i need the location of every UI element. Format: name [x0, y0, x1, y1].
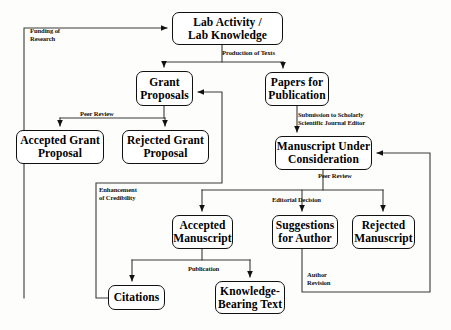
- edge-label-submission-to-journal: Submission to Scholarly Scientific Journ…: [298, 111, 365, 126]
- node-grant-proposals[interactable]: Grant Proposals: [136, 71, 193, 106]
- edge-label-publication: Publication: [188, 265, 219, 273]
- node-grant-proposals-label: Grant Proposals: [137, 76, 192, 102]
- node-citations-label: Citations: [109, 291, 164, 304]
- node-papers-for-publication[interactable]: Papers for Publication: [265, 72, 329, 106]
- node-knowledge-bearing-text-label: Knowledge- Bearing Text: [216, 285, 284, 311]
- edge-label-peer-review-grant: Peer Review: [80, 110, 114, 118]
- node-papers-for-publication-label: Papers for Publication: [266, 76, 328, 102]
- node-manuscript-under-consideration[interactable]: Manuscript Under Consideration: [275, 136, 372, 170]
- node-lab-activity-label: Lab Activity / Lab Knowledge: [173, 16, 282, 42]
- node-accepted-manuscript[interactable]: Accepted Manuscript: [172, 215, 233, 249]
- edge-label-editorial-decision: Editorial Decision: [272, 196, 321, 204]
- edge-label-author-revision: Author Revision: [307, 271, 330, 286]
- node-rejected-grant-proposal-label: Rejected Grant Proposal: [123, 134, 208, 160]
- edge-label-funding-of-research: Funding of Research: [30, 27, 60, 42]
- node-manuscript-under-consideration-label: Manuscript Under Consideration: [276, 140, 371, 166]
- node-rejected-grant-proposal[interactable]: Rejected Grant Proposal: [122, 130, 209, 164]
- node-knowledge-bearing-text[interactable]: Knowledge- Bearing Text: [215, 281, 285, 314]
- flowchart-canvas: Lab Activity / Lab Knowledge Grant Propo…: [0, 0, 451, 330]
- node-accepted-grant-proposal-label: Accepted Grant Proposal: [17, 134, 103, 160]
- node-suggestions-for-author-label: Suggestions for Author: [273, 219, 337, 245]
- node-rejected-manuscript[interactable]: Rejected Manuscript: [352, 215, 415, 249]
- node-accepted-grant-proposal[interactable]: Accepted Grant Proposal: [16, 130, 104, 164]
- edge-label-peer-review-manuscript: Peer Review: [318, 172, 352, 180]
- node-citations[interactable]: Citations: [108, 285, 165, 310]
- node-suggestions-for-author[interactable]: Suggestions for Author: [272, 215, 338, 249]
- node-lab-activity[interactable]: Lab Activity / Lab Knowledge: [172, 12, 283, 45]
- edge-label-enhancement-of-credibility: Enhancement of Credibility: [99, 186, 137, 201]
- node-accepted-manuscript-label: Accepted Manuscript: [173, 219, 232, 245]
- node-rejected-manuscript-label: Rejected Manuscript: [353, 219, 414, 245]
- edge-label-production-of-texts: Production of Texts: [222, 49, 275, 57]
